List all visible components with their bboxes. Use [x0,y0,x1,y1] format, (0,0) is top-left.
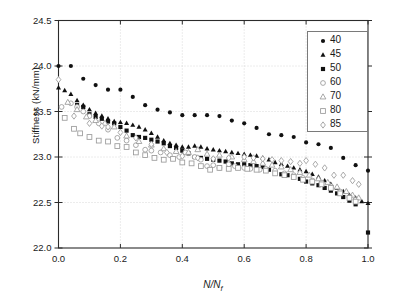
x-axis-label-text: N/Nf [203,279,222,290]
data-point [279,133,283,137]
data-point [205,146,210,150]
data-point [254,126,258,130]
data-point [124,133,130,138]
data-point [168,110,172,114]
y-tick-label: 23.0 [18,151,52,162]
data-point [304,140,308,144]
legend-glyph [321,109,326,114]
data-point [143,136,147,140]
data-point [180,160,185,165]
x-axis-label: N/Nf [158,279,268,293]
data-point [81,105,85,109]
data-point [93,111,98,115]
legend-marker-open-square [308,103,330,116]
data-point [118,88,122,92]
data-point [72,113,77,119]
data-point [87,107,92,111]
data-point [217,152,223,157]
data-point [329,146,333,150]
data-point [133,150,138,155]
data-point [356,181,361,187]
data-point [155,134,160,138]
data-point [270,157,275,163]
data-point [263,168,268,173]
legend-glyph [320,52,325,56]
data-point [106,88,110,92]
legend-label: 70 [330,89,341,102]
data-point [338,191,343,196]
data-point [186,144,191,148]
legend-glyph [321,81,326,86]
data-point [87,120,92,126]
legend-glyph [321,122,326,128]
data-point [143,147,148,152]
data-point [328,186,333,191]
data-point [297,169,303,174]
legend-item-80: 80 [308,103,367,116]
data-point [236,151,241,155]
y-tick-label: 24.0 [18,60,52,71]
data-point [288,158,293,164]
data-point [130,122,135,126]
data-point [208,167,213,172]
x-tick-label: 0.8 [286,253,326,264]
data-point [81,77,85,81]
data-point [106,139,111,144]
data-point [62,88,67,92]
data-point [205,113,209,117]
data-point [205,157,209,161]
data-point [69,64,73,68]
data-point [217,159,221,163]
legend-label: 85 [330,117,341,130]
data-point [236,166,241,171]
data-point [211,147,216,151]
data-point [304,158,309,164]
x-tick-label: 0.6 [224,253,264,264]
data-point [316,142,320,146]
legend-label: 40 [330,33,341,46]
data-point [278,164,284,169]
legend-label: 60 [330,75,341,88]
data-point [322,165,327,171]
data-point [354,163,358,167]
data-point [68,91,73,95]
data-point [115,144,120,149]
legend-item-85: 85 [308,117,367,130]
data-point [226,166,231,171]
data-point [204,151,210,156]
legend-marker-open-diamond [308,117,330,130]
data-point [285,163,290,167]
data-point [75,98,80,102]
data-point [193,113,197,117]
data-point [267,132,271,136]
data-point [149,148,154,153]
data-point [171,156,176,161]
data-point [223,149,228,153]
data-point [118,129,123,135]
legend-item-60: 60 [308,75,367,88]
data-point [254,167,259,172]
data-point [143,153,148,158]
data-point [350,178,355,184]
data-point [347,196,352,201]
data-point [62,115,67,120]
data-point [161,146,167,151]
data-point [124,121,129,125]
data-point [56,85,61,89]
y-tick-label: 22.5 [18,197,52,208]
data-point [168,144,172,148]
data-point [313,161,318,167]
data-point [292,135,296,139]
data-point [192,143,197,147]
data-point [72,126,77,131]
data-point [198,144,203,148]
data-point [226,162,231,167]
data-point [125,129,129,133]
data-point [298,160,303,166]
legend-item-45: 45 [308,47,367,60]
x-tick-label: 0.4 [162,253,202,264]
data-point [260,156,265,162]
figure: Stiffness (kN/mm) N/Nf 40455060708085 0.… [0,0,396,308]
data-point [155,108,159,112]
legend-marker-open-triangle [308,89,330,102]
